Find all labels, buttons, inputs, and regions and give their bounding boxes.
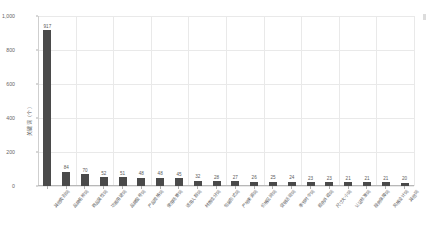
bar-item[interactable]: 24 [282,16,301,186]
bar-item[interactable]: 26 [245,16,264,186]
x-axis-label-slot: 品牌名称词 [57,189,76,237]
bar-item[interactable]: 84 [57,16,76,186]
bar-rect[interactable] [81,174,89,186]
x-axis-label-slot: 功能用途词 [94,189,113,237]
bar-item[interactable]: 21 [376,16,395,186]
x-axis-label-slot: 尺寸大小词 [320,189,339,237]
bar-value-label: 21 [383,177,388,182]
bar-rect[interactable] [175,178,183,186]
plot-area: 9178470525148484532282726252423232121212… [38,16,414,186]
bar-series: 9178470525148484532282726252423232121212… [38,16,414,186]
x-axis-label-slot: 认证标准词 [339,189,358,237]
y-axis-tick-label: 800 [6,47,15,53]
bar-item[interactable]: 20 [395,16,414,186]
bar-value-label: 917 [44,25,52,30]
bar-item[interactable]: 25 [264,16,283,186]
bar-rect[interactable] [156,178,164,186]
corner-mark-icon [423,14,426,20]
x-axis-label-slot: 包装形式词 [207,189,226,237]
x-axis-label-slot: 产品规格词 [132,189,151,237]
bar-item[interactable]: 52 [94,16,113,186]
bar-item[interactable]: 21 [358,16,377,186]
bar-value-label: 27 [233,176,238,181]
bar-value-label: 70 [82,169,87,174]
y-axis-tick-label: 200 [6,149,15,155]
bar-value-label: 23 [327,177,332,182]
bar-rect[interactable] [43,30,51,186]
bar-value-label: 20 [402,177,407,182]
bar-item[interactable]: 21 [339,16,358,186]
x-axis-category-labels: 其他类别词品牌名称词商品属性词功能用途词品牌型号词产品规格词使用场景词适用人群词… [38,189,414,237]
bar-rect[interactable] [100,177,108,186]
bar-value-label: 26 [252,176,257,181]
x-axis-category-label[interactable]: 其他词 [407,189,420,202]
bar-value-label: 24 [289,176,294,181]
bar-item[interactable]: 917 [38,16,57,186]
bar-value-label: 25 [270,176,275,181]
x-axis-label-slot: 产地来源词 [226,189,245,237]
x-axis-label-slot: 季节时令词 [282,189,301,237]
bar-rect[interactable] [119,177,127,186]
bar-value-label: 52 [101,172,106,177]
bar-value-label: 45 [176,173,181,178]
bar-item[interactable]: 51 [113,16,132,186]
bar-item[interactable]: 48 [132,16,151,186]
bar-item[interactable]: 32 [188,16,207,186]
y-axis-title: 关键词（个） [25,104,32,136]
y-axis-tick-label: 600 [6,81,15,87]
y-axis-tick-label: 1,000 [2,13,15,19]
x-axis-label-slot: 颜色外观词 [301,189,320,237]
bar-item[interactable]: 28 [207,16,226,186]
x-axis-label-slot: 商品属性词 [76,189,95,237]
bar-value-label: 28 [214,176,219,181]
bar-item[interactable]: 70 [76,16,95,186]
x-axis-label-slot: 价格区间词 [245,189,264,237]
gridline-vertical [414,16,415,186]
bar-value-label: 51 [120,172,125,177]
y-axis-tick-label: 400 [6,115,15,121]
bar-item[interactable]: 27 [226,16,245,186]
x-axis-label-slot: 适用人群词 [170,189,189,237]
bar-value-label: 48 [139,172,144,177]
x-axis-label-slot: 其他类别词 [38,189,57,237]
bar-value-label: 84 [64,166,69,171]
x-axis-label-slot: 促销活动词 [264,189,283,237]
bar-chart: 关键词（个） 02004006008001,000 91784705251484… [0,0,431,240]
bar-value-label: 21 [364,177,369,182]
x-axis-label-slot: 其他词 [395,189,414,237]
x-axis-label-slot: 品牌型号词 [113,189,132,237]
x-axis-label-slot: 使用场景词 [151,189,170,237]
bar-value-label: 23 [308,177,313,182]
x-axis-label-slot: 材质成分词 [188,189,207,237]
bar-rect[interactable] [137,178,145,186]
bar-value-label: 32 [195,175,200,180]
bar-item[interactable]: 23 [301,16,320,186]
bar-item[interactable]: 48 [151,16,170,186]
x-axis-label-slot: 服务保障词 [358,189,377,237]
bar-item[interactable]: 23 [320,16,339,186]
bar-rect[interactable] [62,172,70,186]
bar-item[interactable]: 45 [170,16,189,186]
bar-value-label: 21 [346,177,351,182]
bar-value-label: 48 [158,172,163,177]
y-axis-tick-label: 0 [12,183,15,189]
x-axis-label-slot: 风格设计词 [376,189,395,237]
